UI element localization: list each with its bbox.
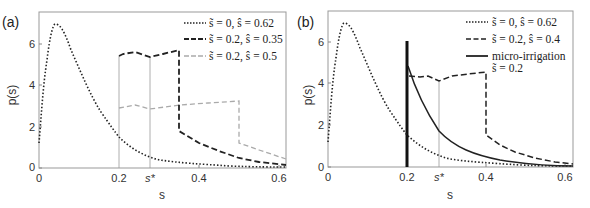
series-micro-irrigation: [408, 66, 573, 166]
series-s0.2-s0.4: [409, 72, 573, 164]
x-axis-label: s: [159, 188, 165, 202]
y-tick: 0: [318, 161, 324, 173]
panel-b: (b) 0 2 4 6 p(s) 0 0.2 s* 0.4 0.6 s: [297, 11, 573, 202]
x-axis-label: s: [447, 188, 453, 202]
y-tick: 2: [318, 119, 324, 131]
x-tick: 0: [325, 171, 331, 183]
x-tick-s-star: s*: [145, 172, 156, 184]
x-tick: 0.2: [399, 171, 414, 183]
y-tick: 4: [29, 79, 35, 91]
x-tick: 0.2: [111, 172, 126, 184]
legend-a: s̃ = 0, ŝ = 0.62 s̃ = 0.2, ŝ = 0.35 s̃ =…: [184, 17, 283, 63]
y-tick: 2: [29, 121, 35, 133]
x-tick: 0.4: [478, 171, 493, 183]
legend-item-sub: s̃ = 0.2: [492, 62, 523, 74]
series-s0.2-s0.5: [119, 101, 286, 159]
y-tick: 6: [29, 38, 35, 50]
x-tick: 0: [36, 172, 42, 184]
panel-a: (a) 0 2 4 6 p(s) 0 0.2 s* 0.4 0.6 s: [2, 12, 287, 202]
x-axis: 0 0.2 s* 0.4 0.6 s: [36, 165, 287, 202]
panel-b-label: (b): [297, 14, 314, 30]
legend-item: s̃ = 0, ŝ = 0.62: [209, 17, 274, 30]
x-tick: 0.6: [271, 172, 286, 184]
y-tick: 6: [318, 36, 324, 48]
legend-item: s̃ = 0.2, ŝ = 0.4: [492, 33, 560, 46]
legend-item: s̃ = 0.2, ŝ = 0.35: [209, 33, 283, 46]
panel-a-label: (a): [2, 14, 19, 30]
legend-item: s̃ = 0, ŝ = 0.62: [492, 16, 557, 29]
x-axis: 0 0.2 s* 0.4 0.6 s: [325, 164, 573, 202]
x-tick: 0.4: [191, 172, 206, 184]
x-tick-s-star: s*: [434, 171, 445, 183]
y-axis: 0 2 4 6 p(s): [301, 36, 331, 173]
y-axis-label: p(s): [5, 85, 19, 106]
figure: (a) 0 2 4 6 p(s) 0 0.2 s* 0.4 0.6 s: [0, 0, 590, 208]
series-s0-s0.62: [39, 24, 286, 167]
legend-item: s̃ = 0.2, ŝ = 0.5: [209, 50, 277, 63]
y-tick: 0: [29, 161, 35, 173]
y-axis: 0 2 4 6 p(s): [5, 38, 42, 173]
legend-b: s̃ = 0, ŝ = 0.62 s̃ = 0.2, ŝ = 0.4 micro…: [466, 16, 566, 74]
y-axis-label: p(s): [301, 85, 315, 106]
y-tick: 4: [318, 77, 324, 89]
x-tick: 0.6: [557, 171, 572, 183]
